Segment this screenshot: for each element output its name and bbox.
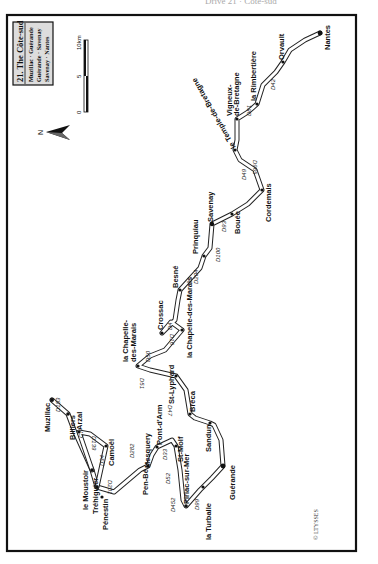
town-piriac-sur-mer: Piriac-sur-Mer xyxy=(182,453,191,504)
road-d93: D93 xyxy=(221,220,227,232)
town-st-lyphard: St-Lyphard xyxy=(167,364,176,404)
town-arzal: Arzal xyxy=(75,412,84,430)
town-la-turballe: la Turballe xyxy=(204,503,213,540)
road-d81: D81 xyxy=(246,105,252,116)
road-d16: D16 xyxy=(169,334,175,346)
town-pont-d-arm: Pont-d'Arm xyxy=(155,404,164,445)
road-d50: D50 xyxy=(145,350,151,362)
road-d4: D4 xyxy=(167,322,173,330)
north-arrow-icon: N xyxy=(37,125,70,140)
road-d153: D153 xyxy=(55,397,61,412)
road-d99: D99 xyxy=(194,498,200,510)
town-st-joachim: la Chapelle-des-Marais xyxy=(185,277,194,358)
town-prinquiau: Prinquiau xyxy=(191,219,200,254)
town-savenay: Savenay xyxy=(206,191,215,222)
road-d139: D139 xyxy=(91,436,97,451)
road-d51: D51 xyxy=(139,378,145,389)
town-guerande: Guérande xyxy=(228,465,237,500)
town-la-rimbertiere: la Rimbertière xyxy=(249,51,258,101)
town-orvault: Orvault xyxy=(277,33,286,60)
copyright-text: © LTYSSES xyxy=(313,509,319,540)
town-crossac: Crossac xyxy=(156,300,165,330)
legend-title: 21. The Côte-sud xyxy=(15,20,25,82)
town-camoel: Camoël xyxy=(107,439,116,466)
road-labels: D153 C7 D34 D139 D201 D282 D33 D52 D452 … xyxy=(55,78,276,512)
town-vigneux-de-bretagne: Vigneux-de-Bretagne xyxy=(225,72,241,116)
road-d282: D282 xyxy=(129,443,135,458)
road-d33: D33 xyxy=(162,448,168,460)
town-trehiguier: Tréhiguier xyxy=(91,478,100,514)
road-d100: D100 xyxy=(215,247,221,262)
town-penestin: Pénestin xyxy=(101,498,110,530)
town-mesquery: Mesquery xyxy=(143,432,152,468)
town-cordemais: Cordemais xyxy=(264,183,273,222)
town-la-chapelle-des-marais: la Chapelle-des-Marais xyxy=(121,319,138,362)
town-le-moustoir: le Moustoir xyxy=(81,470,90,510)
legend-box: 21. The Côte-sud Muzillac · Guérande Gué… xyxy=(13,20,53,85)
legend-line-2: Guérande · Savenay xyxy=(35,27,42,82)
scale-mid: 5 xyxy=(76,74,82,78)
road-d49: D49 xyxy=(241,168,247,180)
road-d42: D42 xyxy=(270,78,276,90)
north-label: N xyxy=(37,130,44,135)
road-d47: D47 xyxy=(167,405,173,417)
town-pen-be: Pen-Bé xyxy=(141,469,150,495)
town-muzillac: Muzillac xyxy=(43,403,52,432)
scale-zero: 0 xyxy=(76,110,82,114)
town-breca: Bréca xyxy=(188,390,197,412)
scale-bar: 0 5 10km xyxy=(76,35,88,114)
legend-line-3: Savenay · Nantes xyxy=(43,36,50,82)
town-bouee: Bouée xyxy=(233,211,242,234)
route-map: 21. The Côte-sud Muzillac · Guérande Gué… xyxy=(0,0,378,564)
scale-max: 10km xyxy=(76,35,82,50)
town-besne: Besné xyxy=(171,265,180,288)
town-sandun: Sandun xyxy=(204,424,213,452)
road-d204: D204 xyxy=(193,269,199,284)
road-c7: C7 xyxy=(78,430,84,438)
road-d201: D201 xyxy=(107,480,113,494)
legend-line-1: Muzillac · Guérande xyxy=(27,27,34,82)
road-d965: D965 xyxy=(252,160,258,175)
town-nantes: Nantes xyxy=(323,25,332,50)
road-d34: D34 xyxy=(99,454,105,466)
road-d452: D452 xyxy=(170,497,176,512)
road-d52: D52 xyxy=(165,472,171,484)
